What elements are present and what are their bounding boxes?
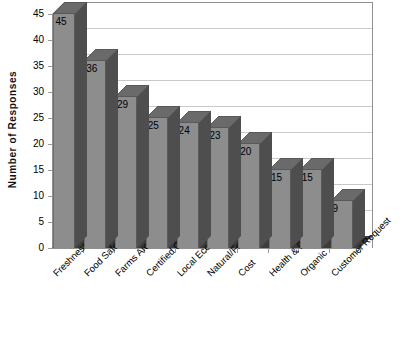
plot-back-right-edge xyxy=(372,2,373,248)
bar[interactable]: 45 xyxy=(53,2,87,248)
bar[interactable]: 24 xyxy=(177,111,211,248)
bar[interactable]: 9 xyxy=(331,189,365,248)
y-axis-tick-label: 35 xyxy=(20,61,44,71)
bar[interactable]: 36 xyxy=(84,49,118,248)
bar-side-face xyxy=(137,85,150,249)
x-axis-category-label: Cost xyxy=(237,258,258,279)
bar-chart-figure: Number of Responses 05101520253035404545… xyxy=(0,0,420,356)
y-axis-tick-label: 45 xyxy=(20,9,44,19)
bar-side-face xyxy=(199,111,212,249)
bar[interactable]: 15 xyxy=(300,158,334,248)
bar[interactable]: 29 xyxy=(115,85,149,248)
y-axis-tick-label: 40 xyxy=(20,35,44,45)
y-axis-tick-label: 25 xyxy=(20,113,44,123)
bar[interactable]: 23 xyxy=(207,116,241,248)
x-axis-tick-mark xyxy=(268,249,269,253)
bar-front-face xyxy=(53,14,75,248)
y-axis-tick-label: 0 xyxy=(20,243,44,253)
bar-side-face xyxy=(260,132,273,249)
plot-area: 05101520253035404545Freshness36Food Safe… xyxy=(0,0,420,356)
y-axis-tick-label: 5 xyxy=(20,217,44,227)
y-axis-tick-label: 20 xyxy=(20,139,44,149)
bar-side-face xyxy=(75,2,88,249)
y-axis-tick-label: 10 xyxy=(20,191,44,201)
bar-side-face xyxy=(353,189,366,249)
bar[interactable]: 20 xyxy=(238,132,272,248)
bar-value-label: 45 xyxy=(55,17,66,27)
x-axis-tick-mark xyxy=(329,249,330,253)
x-axis-category-label: Organic xyxy=(298,248,329,279)
y-axis-tick-label: 15 xyxy=(20,165,44,175)
bar[interactable]: 15 xyxy=(269,158,303,248)
bar-side-face xyxy=(106,49,119,249)
bar-side-face xyxy=(291,158,304,249)
bar[interactable]: 25 xyxy=(146,106,180,248)
bar-side-face xyxy=(168,106,181,249)
gridline xyxy=(64,28,372,29)
plot-back-top-edge xyxy=(64,2,372,3)
y-axis-tick-label: 30 xyxy=(20,87,44,97)
bar-side-face xyxy=(229,116,242,249)
bar-side-face xyxy=(322,158,335,249)
